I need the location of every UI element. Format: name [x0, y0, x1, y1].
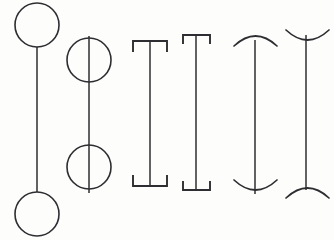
top-circle-cap	[15, 3, 59, 47]
bottom-circle-cap	[15, 192, 59, 236]
bottom-dome-cap	[286, 188, 329, 198]
figure-cup-top-dome-bottom	[286, 30, 329, 198]
top-cup-cap	[286, 30, 329, 40]
figure-wide-i-beam	[133, 41, 167, 186]
figure-dome-top-cup-bottom	[234, 36, 277, 194]
figure-narrow-i-beam	[183, 35, 210, 190]
diagram-svg	[0, 0, 334, 240]
diagram-canvas	[0, 0, 334, 240]
figure-line-with-tangent-circles	[15, 3, 59, 236]
figure-line-through-circles	[67, 36, 111, 193]
